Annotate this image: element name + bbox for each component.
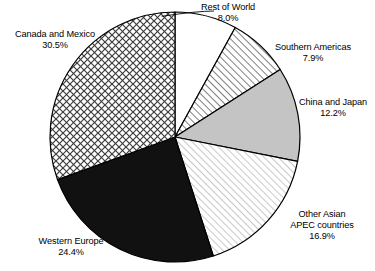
slice-label-value: 12.2% [299,108,367,119]
slice-label-china-and-japan: China and Japan 12.2% [299,97,367,119]
slice-label-name: Southern Americas [275,42,351,53]
slice-label-western-europe: Western Europe 24.4% [39,236,104,258]
slice-label-name: Rest of World [201,2,255,13]
slice-label-southern-americas: Southern Americas 7.9% [275,42,351,64]
slice-label-canada-and-mexico: Canada and Mexico 30.5% [15,29,95,51]
slice-label-name: China and Japan [299,97,367,108]
slice-label-other-asian-apec: Other Asian APEC countries 16.9% [290,209,353,243]
slice-label-name: Other Asian [290,209,353,220]
slice-label-name-cont: APEC countries [290,220,353,231]
slice-label-value: 8.0% [201,13,255,24]
slice-label-name: Canada and Mexico [15,29,95,40]
slice-label-name: Western Europe [39,236,104,247]
slice-label-value: 30.5% [15,40,95,51]
slice-label-value: 24.4% [39,247,104,258]
slice-label-value: 7.9% [275,53,351,64]
slice-label-rest-of-world: Rest of World 8.0% [201,2,255,24]
slice-label-value: 16.9% [290,231,353,242]
pie-chart-figure: Rest of World 8.0% Southern Americas 7.9… [0,0,375,271]
